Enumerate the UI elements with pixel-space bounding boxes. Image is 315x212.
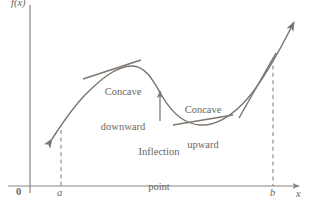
x-tick-label-a: a <box>57 187 62 199</box>
annotation-concave-upward-line1: Concave <box>172 104 234 116</box>
tangent-line-near-b <box>239 53 276 118</box>
concavity-figure: f(x) 0 a b x Concave downward Concave up… <box>0 0 315 212</box>
x-tick-label-b: b <box>270 187 275 199</box>
x-axis-label: x <box>296 188 301 200</box>
annotation-inflection-point: Inflection point <box>126 122 192 212</box>
annotation-concave-downward-line1: Concave <box>92 86 154 98</box>
annotation-inflection-point-line1: Inflection <box>126 146 192 158</box>
annotation-inflection-point-line2: point <box>126 181 192 193</box>
origin-label: 0 <box>16 186 21 198</box>
y-axis-label: f(x) <box>11 0 26 9</box>
